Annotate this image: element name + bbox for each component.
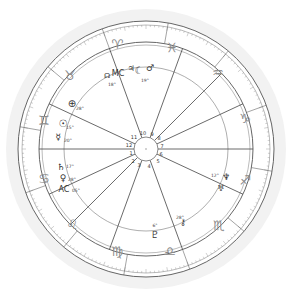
part-of-fortune-icon: ⊕︎ [68, 98, 76, 109]
midheaven-icon: MC [112, 69, 125, 78]
sign-cancer-icon: ♋︎ [38, 171, 50, 186]
chart-wheel: ♈︎♓︎♒︎♑︎♐︎♏︎♎︎♍︎♌︎♋︎♊︎♉︎ 123456789101112… [0, 0, 291, 299]
house-number: 7 [160, 143, 163, 149]
house-number: 12 [126, 142, 132, 148]
house-number: 1 [129, 150, 132, 156]
sign-leo-icon: ♌︎ [66, 217, 78, 232]
sign-capricorn-icon: ♑︎ [239, 111, 251, 126]
degree-label: 18° [108, 82, 116, 87]
degree-label: 28° [176, 215, 184, 220]
sign-virgo-icon: ♍︎ [111, 244, 123, 259]
house-number: 11 [131, 134, 137, 140]
house-number: 9 [150, 131, 153, 137]
degree-label: 17° [66, 164, 74, 169]
uranus-icon: ♅︎ [217, 184, 224, 193]
sign-libra-icon: ♎︎ [164, 244, 176, 259]
degree-label: 6° [152, 223, 157, 228]
venus-icon: ♀︎ [60, 173, 67, 183]
house-number: 10 [140, 130, 146, 136]
house-number: 2 [131, 158, 134, 164]
house-number: 6 [159, 151, 162, 157]
node-icon: ☊︎ [104, 72, 110, 80]
house-number: 8 [157, 135, 160, 141]
house-number: 5 [156, 158, 159, 164]
degree-label: 20° [64, 138, 72, 143]
center-dot [145, 148, 147, 150]
mercury-icon: ☿︎ [55, 132, 61, 142]
degree-label: 19° [141, 78, 149, 83]
moon-icon: ☾︎ [135, 65, 144, 76]
sign-aries-icon: ♈︎ [111, 37, 123, 52]
degree-label: 28° [68, 177, 76, 182]
house-number: 3 [137, 162, 140, 168]
sign-sagittarius-icon: ♐︎ [239, 173, 251, 188]
degree-label: 28° [76, 106, 84, 111]
neptune-icon: ♆︎ [222, 172, 230, 182]
astrology-chart: ♈︎♓︎♒︎♑︎♐︎♏︎♎︎♍︎♌︎♋︎♊︎♉︎ 123456789101112… [0, 0, 291, 299]
sign-aquarius-icon: ♒︎ [212, 65, 224, 80]
degree-label: 15° [66, 125, 74, 130]
degree-label: 12° [211, 173, 219, 178]
house-number: 4 [147, 163, 150, 169]
mars-icon: ♂︎ [146, 63, 154, 73]
sign-pisces-icon: ♓︎ [166, 40, 178, 55]
pluto-icon: ♇︎ [151, 229, 160, 240]
sign-scorpio-icon: ♏︎ [213, 218, 225, 233]
saturn-icon: ♄︎ [57, 162, 65, 172]
degree-label: 05° [72, 188, 80, 193]
sign-gemini-icon: ♊︎ [38, 113, 50, 128]
sign-taurus-icon: ♉︎ [64, 68, 76, 83]
ascendant-icon: AC [59, 185, 70, 194]
jupiter-top-icon: ♃︎ [127, 64, 134, 73]
